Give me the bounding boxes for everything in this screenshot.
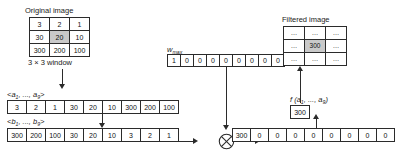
max-filter-diagram: Original image 3 2 1 30 20 10 300 200 10… — [0, 0, 397, 155]
filtered-window-row: … … … — [284, 27, 347, 40]
arrowhead-down-operator — [223, 125, 229, 130]
vector-b-sub-9: 9 — [37, 121, 40, 127]
arrowhead-right-operator — [193, 138, 198, 144]
vector-a-cell: 100 — [160, 101, 179, 114]
filtered-cell: … — [305, 27, 326, 40]
filtered-cell-center: 300 — [305, 40, 326, 53]
original-cell-center: 20 — [50, 31, 70, 44]
arrowhead-down-vector-a — [59, 84, 65, 89]
filtered-cell: … — [284, 40, 305, 53]
vector-b-cell: 1 — [160, 129, 179, 142]
connector-vector-b-to-operator — [178, 141, 194, 142]
vector-b-cells: 300 200 100 30 20 10 3 2 1 — [8, 129, 179, 142]
vector-a-cell: 200 — [141, 101, 160, 114]
vector-a-cells: 3 2 1 30 20 10 300 200 100 — [8, 101, 179, 114]
result-label-mid: , ..., a — [304, 95, 323, 104]
original-window-grid: 3 2 1 30 20 10 300 200 100 — [29, 17, 90, 57]
arrowhead-up-filtered — [297, 66, 303, 71]
filtered-cell: … — [305, 53, 326, 66]
vector-a-cell: 1 — [46, 101, 65, 114]
product-cell: 0 — [359, 129, 377, 142]
filtered-cell: … — [284, 53, 305, 66]
result-value-box: 300 — [290, 105, 310, 119]
vector-b-cell: 300 — [8, 129, 27, 142]
weight-cell: 0 — [194, 55, 207, 67]
original-image-title: Original image — [25, 6, 73, 15]
product-cell: 0 — [251, 129, 269, 142]
vector-a-cell: 2 — [27, 101, 46, 114]
vector-a-sub-9: 9 — [37, 94, 40, 100]
vector-b-cell: 20 — [84, 129, 103, 142]
weight-cell: 0 — [220, 55, 233, 67]
product-cell: 0 — [341, 129, 359, 142]
vector-a-cell: 30 — [65, 101, 84, 114]
vector-a-cell: 300 — [122, 101, 141, 114]
arrowhead-up-result — [313, 114, 319, 119]
vector-b-label-mid: , ..., b — [18, 117, 37, 126]
filtered-image-title: Filtered image — [282, 15, 330, 24]
vector-b-cell: 200 — [27, 129, 46, 142]
vector-b-cell: 100 — [46, 129, 65, 142]
filtered-cell: … — [326, 27, 347, 40]
original-cell: 2 — [50, 18, 70, 31]
vector-a-cell: 3 — [8, 101, 27, 114]
weight-cell: 0 — [246, 55, 259, 67]
weight-cell: 1 — [168, 55, 181, 67]
product-cell: 0 — [287, 129, 305, 142]
vector-b-cell: 10 — [103, 129, 122, 142]
vector-a-label: <a1, ..., a9> — [7, 90, 45, 100]
vector-b-label-text: <b — [7, 117, 16, 126]
original-cell: 1 — [70, 18, 90, 31]
weight-cell: 0 — [259, 55, 272, 67]
result-value-cell: 300 — [291, 106, 310, 119]
original-cell: 100 — [70, 44, 90, 57]
result-sub-1: 1 — [301, 99, 304, 105]
filtered-cell: … — [326, 53, 347, 66]
connector-weights-to-operator — [226, 67, 227, 126]
original-window-row: 30 20 10 — [30, 31, 90, 44]
product-cell: 0 — [323, 129, 341, 142]
original-window-row: 3 2 1 — [30, 18, 90, 31]
product-cell: 0 — [269, 129, 287, 142]
weight-cell: 0 — [233, 55, 246, 67]
product-cell: 300 — [233, 129, 251, 142]
result-function-label: f (a1, ..., a9) — [290, 95, 328, 105]
window-caption: 3 × 3 window — [28, 58, 72, 67]
connector-product-to-result — [316, 118, 317, 128]
vector-b-label: <b1, ..., b9> — [7, 117, 45, 127]
original-cell: 10 — [70, 31, 90, 44]
product-vector-cells: 300 0 0 0 0 0 0 0 0 — [233, 129, 395, 142]
vector-a-cell: 10 — [103, 101, 122, 114]
filtered-window-grid: … … … … 300 … … … … — [283, 26, 347, 66]
original-window-row: 300 200 100 — [30, 44, 90, 57]
filtered-window-row: … … … — [284, 53, 347, 66]
result-sub-9: 9 — [323, 99, 326, 105]
weight-vector-cells: 1 0 0 0 0 0 0 0 0 — [168, 55, 285, 67]
vector-a-row: 3 2 1 30 20 10 300 200 100 — [7, 100, 179, 114]
filtered-cell: … — [326, 40, 347, 53]
original-cell: 200 — [50, 44, 70, 57]
connector-window-to-vector-a — [62, 69, 63, 85]
connector-result-to-filtered — [300, 70, 301, 103]
vector-b-cell: 2 — [141, 129, 160, 142]
original-cell: 3 — [30, 18, 50, 31]
product-vector-row: 300 0 0 0 0 0 0 0 0 — [232, 128, 395, 142]
weight-vector-row: 1 0 0 0 0 0 0 0 0 — [167, 54, 285, 67]
vector-b-cell: 30 — [65, 129, 84, 142]
result-value-row: 300 — [291, 106, 310, 119]
vector-a-cell: 20 — [84, 101, 103, 114]
filtered-window-row: … 300 … — [284, 40, 347, 53]
weight-cell: 0 — [207, 55, 220, 67]
result-label-end: ) — [325, 95, 328, 104]
filtered-cell: … — [284, 27, 305, 40]
product-cell: 0 — [377, 129, 395, 142]
weight-cell: 0 — [181, 55, 194, 67]
original-cell: 300 — [30, 44, 50, 57]
product-cell: 0 — [305, 129, 323, 142]
vector-b-row: 300 200 100 30 20 10 3 2 1 — [7, 128, 179, 142]
vector-a-label-mid: , ..., a — [18, 90, 37, 99]
vector-b-cell: 3 — [122, 129, 141, 142]
vector-b-label-end: > — [40, 117, 44, 126]
original-cell: 30 — [30, 31, 50, 44]
vector-a-label-end: > — [40, 90, 44, 99]
